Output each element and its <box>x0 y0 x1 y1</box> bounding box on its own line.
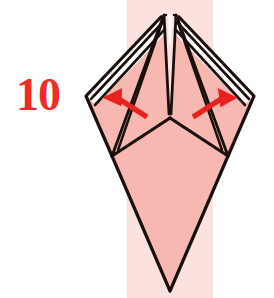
origami-diagram: 10 <box>0 0 274 298</box>
origami-figure-svg: 10 <box>0 0 274 298</box>
step-number-label: 10 <box>16 69 60 120</box>
